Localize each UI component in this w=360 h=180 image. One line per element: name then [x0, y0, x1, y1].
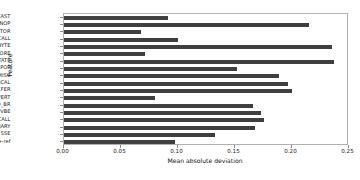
y-tick-label: XRSTOR	[0, 29, 11, 34]
bar-chart-figure: Feature BROADCASTNOPXRSTORSYSCALLBITBYTE…	[0, 0, 360, 180]
y-tick-label: CALL	[0, 117, 11, 122]
y-tick-label: cache-ref	[0, 139, 11, 144]
bar	[64, 38, 178, 42]
y-tick-label: COND_BR	[0, 102, 11, 107]
x-axis-label: Mean absolute deviation	[63, 158, 348, 164]
bar	[64, 23, 309, 27]
bar	[64, 140, 176, 144]
x-tick-label: 0.20	[271, 149, 311, 155]
y-tick-label: CMOVBE	[0, 109, 11, 114]
bar	[64, 30, 142, 34]
y-tick-label: BROADCAST	[0, 14, 11, 19]
bar	[64, 74, 279, 78]
plot-area	[63, 13, 348, 145]
bar	[64, 96, 155, 100]
y-tick-label: SEMAPHORE	[0, 51, 11, 56]
bar	[64, 45, 332, 49]
bar	[64, 16, 168, 20]
bar	[64, 133, 215, 137]
x-tick-label: 0.00	[43, 149, 83, 155]
y-tick-label: BITBYTE	[0, 43, 11, 48]
x-tick-label: 0.10	[157, 149, 197, 155]
y-tick-label: POP	[0, 65, 11, 70]
y-tick-label: BINARY	[0, 124, 11, 129]
y-tick-label: MISC	[0, 73, 11, 78]
bar	[64, 118, 265, 122]
x-tick-label: 0.05	[100, 149, 140, 155]
bar	[64, 82, 288, 86]
bar	[64, 60, 334, 64]
y-tick-label: DATAXFER	[0, 87, 11, 92]
y-tick-label: SSE	[0, 131, 11, 136]
bar	[64, 111, 261, 115]
y-tick-label: CONVERT	[0, 95, 11, 100]
bar	[64, 126, 256, 130]
bar	[64, 52, 146, 56]
y-tick-label: SYSCALL	[0, 36, 11, 41]
bar	[64, 104, 254, 108]
x-tick-label: 0.25	[328, 149, 360, 155]
bar	[64, 89, 292, 93]
bar	[64, 67, 238, 71]
x-tick-label: 0.15	[214, 149, 254, 155]
y-tick-label: LOGICAL	[0, 80, 11, 85]
y-tick-label: ROTATE	[0, 58, 11, 63]
y-tick-label: NOP	[0, 21, 11, 26]
